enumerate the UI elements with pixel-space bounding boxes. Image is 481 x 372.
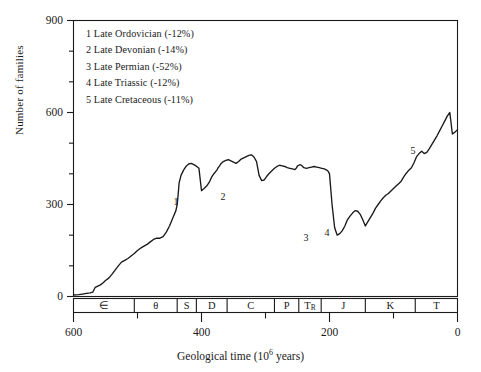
period-label-ordovician: θ	[153, 300, 158, 311]
period-label-silurian: S	[184, 300, 190, 311]
period-label-cretaceous: K	[387, 300, 395, 311]
period-bar-layer: ∈θSDCPTRJKT	[74, 299, 458, 323]
axes-layer	[67, 21, 458, 297]
diversity-curve	[74, 113, 458, 295]
chart-canvas: ∈θSDCPTRJKT	[0, 0, 481, 372]
period-label-permian: P	[284, 300, 290, 311]
diversity-curve-layer	[74, 113, 458, 295]
period-label-devonian: D	[208, 300, 216, 311]
period-label-jurassic: J	[341, 300, 345, 311]
period-label-tertiary: T	[433, 300, 440, 311]
chart-root: Number of families Geological time (106 …	[0, 0, 481, 372]
period-label-cambrian: ∈	[99, 300, 109, 311]
period-label-carboniferous: C	[247, 300, 254, 311]
period-label-triassic: TR	[304, 300, 315, 312]
